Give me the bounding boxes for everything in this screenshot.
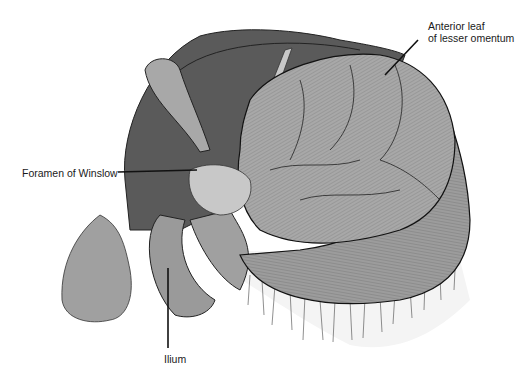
label-foramen-of-winslow: Foramen of Winslow bbox=[22, 167, 118, 179]
label-ilium: Ilium bbox=[164, 353, 186, 365]
anatomy-figure: Anterior leaf of lesser omentum Foramen … bbox=[0, 0, 531, 379]
label-anterior-leaf-line1: Anterior leaf bbox=[428, 20, 514, 32]
anatomy-illustration bbox=[0, 0, 531, 379]
colon bbox=[62, 215, 131, 322]
label-anterior-leaf-line2: of lesser omentum bbox=[428, 32, 514, 44]
duodenum bbox=[190, 210, 249, 290]
label-anterior-leaf: Anterior leaf of lesser omentum bbox=[428, 20, 514, 44]
